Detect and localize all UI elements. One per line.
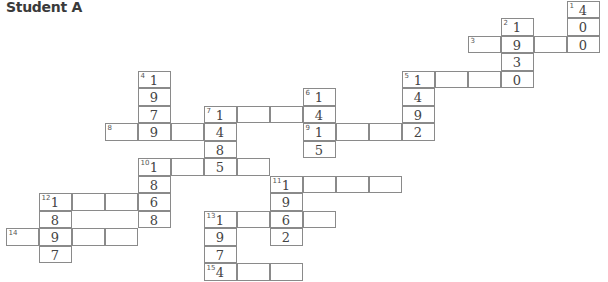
crossword-cell[interactable]: 4 <box>402 88 435 106</box>
crossword-cell[interactable]: 6 <box>138 193 171 211</box>
crossword-cell[interactable] <box>468 71 501 89</box>
cell-digit: 1 <box>304 124 335 140</box>
cell-digit: 8 <box>139 212 170 228</box>
crossword-cell[interactable]: 7 <box>138 106 171 124</box>
crossword-cell[interactable]: 154 <box>204 263 237 281</box>
crossword-cell[interactable]: 5 <box>303 141 336 159</box>
cell-digit: 2 <box>271 229 302 245</box>
cell-digit <box>172 124 203 140</box>
cell-digit <box>238 107 269 123</box>
crossword-cell[interactable]: 9 <box>501 36 534 54</box>
crossword-cell[interactable] <box>72 193 105 211</box>
crossword-cell[interactable] <box>237 158 270 176</box>
crossword-cell[interactable] <box>237 263 270 281</box>
cell-digit: 6 <box>271 212 302 228</box>
cell-digit <box>370 177 401 193</box>
cell-digit <box>370 124 401 140</box>
crossword-cell[interactable]: 0 <box>501 71 534 89</box>
crossword-cell[interactable]: 5 <box>204 158 237 176</box>
crossword-cell[interactable]: 8 <box>204 141 237 159</box>
crossword-cell[interactable] <box>336 123 369 141</box>
cell-digit: 4 <box>205 124 236 140</box>
crossword-cell[interactable]: 9 <box>39 228 72 246</box>
cell-digit: 5 <box>205 159 236 175</box>
cell-digit <box>271 107 302 123</box>
crossword-cell[interactable]: 91 <box>303 123 336 141</box>
crossword-cell[interactable] <box>237 211 270 229</box>
crossword-cell[interactable] <box>237 106 270 124</box>
crossword-cell[interactable] <box>534 36 567 54</box>
crossword-cell[interactable]: 101 <box>138 158 171 176</box>
cell-digit <box>106 194 137 210</box>
cell-digit <box>7 229 38 245</box>
crossword-cell[interactable]: 9 <box>204 228 237 246</box>
crossword-cell[interactable]: 9 <box>402 106 435 124</box>
cell-digit: 6 <box>139 194 170 210</box>
crossword-cell[interactable] <box>171 158 204 176</box>
cell-digit: 0 <box>568 37 599 53</box>
cell-digit: 2 <box>403 124 434 140</box>
crossword-cell[interactable] <box>435 71 468 89</box>
crossword-cell[interactable] <box>270 263 303 281</box>
crossword-cell[interactable]: 121 <box>39 193 72 211</box>
cell-digit <box>304 212 335 228</box>
crossword-cell[interactable]: 41 <box>138 71 171 89</box>
crossword-cell[interactable]: 3 <box>501 53 534 71</box>
crossword-cell[interactable]: 2 <box>402 123 435 141</box>
cell-digit: 0 <box>502 72 533 88</box>
crossword-cell[interactable]: 14 <box>567 1 600 19</box>
cell-digit: 1 <box>40 194 71 210</box>
cell-digit: 4 <box>205 264 236 280</box>
crossword-cell[interactable] <box>171 123 204 141</box>
cell-digit <box>238 159 269 175</box>
crossword-cell[interactable]: 7 <box>204 246 237 264</box>
crossword-cell[interactable]: 8 <box>39 211 72 229</box>
cell-digit <box>106 124 137 140</box>
cell-digit: 7 <box>205 247 236 263</box>
crossword-cell[interactable]: 9 <box>270 193 303 211</box>
cell-digit <box>172 159 203 175</box>
crossword-cell[interactable]: 2 <box>270 228 303 246</box>
crossword-cell[interactable]: 8 <box>105 123 138 141</box>
crossword-cell[interactable]: 14 <box>6 228 39 246</box>
cell-digit: 8 <box>139 177 170 193</box>
cell-digit: 9 <box>40 229 71 245</box>
crossword-cell[interactable] <box>270 106 303 124</box>
crossword-cell[interactable]: 0 <box>567 18 600 36</box>
crossword-cell[interactable]: 51 <box>402 71 435 89</box>
cell-digit <box>469 72 500 88</box>
crossword-cell[interactable]: 0 <box>567 36 600 54</box>
crossword-cell[interactable]: 8 <box>138 211 171 229</box>
crossword-cell[interactable] <box>369 123 402 141</box>
crossword-cell[interactable]: 6 <box>270 211 303 229</box>
crossword-cell[interactable] <box>105 228 138 246</box>
cell-digit: 1 <box>205 212 236 228</box>
crossword-cell[interactable] <box>303 211 336 229</box>
crossword-cell[interactable] <box>336 176 369 194</box>
crossword-cell[interactable]: 21 <box>501 18 534 36</box>
cell-digit: 1 <box>139 72 170 88</box>
crossword-cell[interactable]: 4 <box>204 123 237 141</box>
cell-digit: 9 <box>502 37 533 53</box>
cell-digit: 1 <box>304 89 335 105</box>
cell-digit: 8 <box>205 142 236 158</box>
crossword-cell[interactable] <box>369 176 402 194</box>
crossword-cell[interactable] <box>303 176 336 194</box>
crossword-cell[interactable]: 7 <box>39 246 72 264</box>
crossword-cell[interactable]: 9 <box>138 88 171 106</box>
crossword-cell[interactable]: 9 <box>138 123 171 141</box>
cell-digit <box>106 229 137 245</box>
cell-digit: 4 <box>304 107 335 123</box>
crossword-cell[interactable]: 111 <box>270 176 303 194</box>
cell-digit: 1 <box>205 107 236 123</box>
crossword-cell[interactable]: 3 <box>468 36 501 54</box>
crossword-cell[interactable] <box>105 193 138 211</box>
crossword-cell[interactable]: 4 <box>303 106 336 124</box>
crossword-grid: 1400213930514924197986149157148510186811… <box>0 0 608 282</box>
crossword-cell[interactable]: 61 <box>303 88 336 106</box>
crossword-cell[interactable]: 131 <box>204 211 237 229</box>
crossword-cell[interactable]: 71 <box>204 106 237 124</box>
crossword-cell[interactable]: 8 <box>138 176 171 194</box>
cell-digit <box>73 229 104 245</box>
crossword-cell[interactable] <box>72 228 105 246</box>
